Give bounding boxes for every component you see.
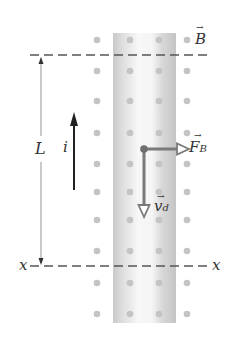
- field-dot-icon: [127, 161, 134, 168]
- field-dot-icon: [184, 280, 191, 287]
- field-dot-icon: [156, 217, 163, 224]
- field-dot-icon: [127, 98, 134, 105]
- field-dot-icon: [184, 98, 191, 105]
- field-dot-icon: [127, 248, 134, 255]
- field-dot-icon: [184, 68, 191, 75]
- field-dot-icon: [156, 130, 163, 137]
- field-dot-icon: [94, 161, 101, 168]
- field-dot-icon: [94, 37, 101, 44]
- field-dot-icon: [127, 189, 134, 196]
- field-dot-icon: [184, 130, 191, 137]
- field-dot-icon: [94, 189, 101, 196]
- field-dot-icon: [127, 217, 134, 224]
- field-dot-icon: [94, 98, 101, 105]
- field-dot-icon: [156, 280, 163, 287]
- length-label: L: [35, 141, 46, 157]
- field-dot-icon: [127, 280, 134, 287]
- force-subscript: B: [199, 143, 206, 154]
- hall-effect-diagram: [0, 0, 234, 342]
- field-dot-icon: [156, 311, 163, 318]
- field-dot-icon: [156, 98, 163, 105]
- field-dot-icon: [156, 248, 163, 255]
- charge-carrier-dot: [140, 145, 148, 153]
- force-label: FB: [189, 140, 207, 155]
- field-dot-icon: [94, 130, 101, 137]
- field-dot-icon: [127, 37, 134, 44]
- drift-velocity-label: vd: [154, 199, 169, 214]
- field-dot-icon: [184, 248, 191, 255]
- field-dot-icon: [127, 68, 134, 75]
- field-dot-icon: [94, 280, 101, 287]
- axis-label-right: x: [212, 258, 220, 273]
- field-dot-icon: [184, 161, 191, 168]
- field-dot-icon: [184, 311, 191, 318]
- force-symbol: F: [189, 138, 199, 156]
- current-label: i: [63, 140, 68, 155]
- field-dot-icon: [156, 68, 163, 75]
- length-arrowhead-up-icon: [39, 57, 44, 64]
- force-arrowhead-icon: [177, 144, 189, 155]
- field-dot-icon: [127, 130, 134, 137]
- field-dot-icon: [94, 68, 101, 75]
- field-dot-icon: [184, 189, 191, 196]
- velocity-subscript: d: [162, 202, 168, 213]
- current-arrowhead-icon: [70, 112, 78, 126]
- field-dot-icon: [184, 217, 191, 224]
- magnetic-field-label: B: [195, 32, 206, 47]
- field-dot-icon: [94, 248, 101, 255]
- field-dot-icon: [184, 37, 191, 44]
- length-arrowhead-down-icon: [39, 258, 44, 265]
- field-dot-icon: [94, 217, 101, 224]
- field-dot-icon: [156, 161, 163, 168]
- field-dot-icon: [94, 311, 101, 318]
- field-dot-icon: [127, 311, 134, 318]
- field-dot-icon: [156, 37, 163, 44]
- axis-label-left: x: [19, 258, 27, 273]
